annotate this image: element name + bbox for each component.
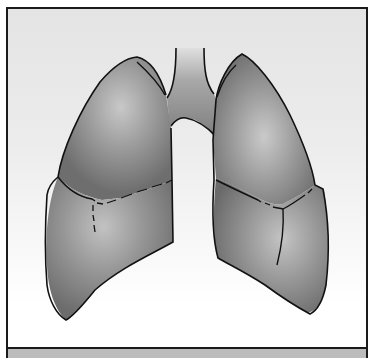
left-upper-lobe <box>58 57 172 200</box>
trachea <box>167 48 217 140</box>
right-upper-lobe <box>213 54 315 204</box>
right-lung <box>213 54 328 314</box>
left-lung <box>46 57 174 320</box>
bottom-band <box>6 349 368 358</box>
lungs-illustration <box>0 0 380 358</box>
